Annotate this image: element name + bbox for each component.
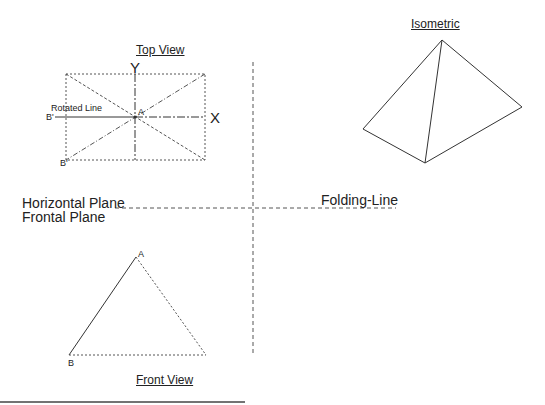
top-view-title: Top View bbox=[136, 44, 184, 56]
isometric-pyramid-edge bbox=[425, 40, 442, 163]
front-view-point-a-label: A bbox=[138, 250, 144, 259]
front-view-point-b-label: B bbox=[68, 359, 74, 368]
front-view-edge-right bbox=[136, 257, 206, 355]
y-axis-label: Y bbox=[130, 60, 140, 75]
isometric-pyramid-outline bbox=[363, 40, 522, 163]
rotated-line-label: Rotated Line bbox=[51, 104, 102, 113]
point-b-label-top: B' bbox=[60, 159, 68, 168]
frontal-plane-label: Frontal Plane bbox=[22, 210, 105, 224]
x-axis-label: X bbox=[210, 110, 220, 125]
folding-line-label: Folding-Line bbox=[321, 193, 398, 207]
point-a-marker bbox=[133, 115, 136, 118]
point-b-prime-label: B' bbox=[46, 113, 54, 122]
top-view-point-a-label: A bbox=[138, 108, 144, 117]
front-view-true-length-line bbox=[69, 257, 136, 355]
front-view-title: Front View bbox=[136, 374, 193, 386]
isometric-title: Isometric bbox=[411, 18, 460, 30]
horizontal-plane-label: Horizontal Plane bbox=[22, 196, 125, 210]
